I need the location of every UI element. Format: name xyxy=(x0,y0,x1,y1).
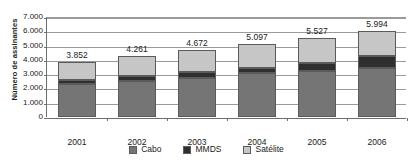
bar-segment-satélite-2001[interactable] xyxy=(58,62,96,80)
bar-total-label-2006: 5.994 xyxy=(349,20,405,29)
legend-item-satélite[interactable]: Satélite xyxy=(243,145,283,154)
legend-swatch-icon-cabo xyxy=(129,146,137,154)
bar-stack xyxy=(178,17,216,117)
y-tick-mark xyxy=(44,61,47,62)
y-tick-label: 5.000 xyxy=(0,42,43,50)
bar-segment-satélite-2002[interactable] xyxy=(118,56,156,76)
gridline xyxy=(47,89,406,90)
legend-item-cabo[interactable]: Cabo xyxy=(129,145,161,154)
y-tick-mark xyxy=(44,104,47,105)
plot-area: 3.8524.2614.6725.0975.5275.994 200120022… xyxy=(46,17,406,117)
bar-group-2006[interactable]: 5.994 xyxy=(358,17,396,117)
gridline xyxy=(47,18,406,19)
bar-stack xyxy=(58,17,96,117)
y-tick-mark xyxy=(44,32,47,33)
y-tick-label: 1.000 xyxy=(0,99,43,107)
legend-swatch-icon-satélite xyxy=(243,146,251,154)
y-tick-mark xyxy=(44,89,47,90)
bar-stack xyxy=(118,17,156,117)
x-tick-mark xyxy=(347,118,348,121)
y-tick-label: 3.000 xyxy=(0,70,43,78)
gridline xyxy=(47,47,406,48)
bar-total-label-2004: 5.097 xyxy=(229,33,285,42)
gridline xyxy=(47,32,406,33)
gridline xyxy=(47,61,406,62)
x-tick-mark xyxy=(407,118,408,121)
y-tick-label: 6.000 xyxy=(0,27,43,35)
legend-swatch-icon-mmds xyxy=(183,146,191,154)
chart-legend: CaboMMDSSatélite xyxy=(0,145,413,154)
bar-segment-satélite-2003[interactable] xyxy=(178,50,216,72)
legend-label: Satélite xyxy=(255,145,283,154)
bar-total-label-2002: 4.261 xyxy=(109,45,165,54)
y-tick-label: 0 xyxy=(0,113,43,121)
bar-segment-satélite-2005[interactable] xyxy=(298,38,336,63)
bar-total-label-2005: 5.527 xyxy=(289,27,345,36)
x-tick-mark xyxy=(287,118,288,121)
y-tick-mark xyxy=(44,47,47,48)
bar-segment-mmds-2004[interactable] xyxy=(238,68,276,73)
bar-total-label-2003: 4.672 xyxy=(169,39,225,48)
x-tick-mark xyxy=(227,118,228,121)
bar-group-2002[interactable]: 4.261 xyxy=(118,17,156,117)
bar-segment-cabo-2002[interactable] xyxy=(118,81,156,117)
bar-segment-cabo-2006[interactable] xyxy=(358,68,396,117)
bar-total-label-2001: 3.852 xyxy=(49,51,105,60)
bar-group-2003[interactable]: 4.672 xyxy=(178,17,216,117)
bar-segment-cabo-2004[interactable] xyxy=(238,73,276,117)
bar-group-2004[interactable]: 5.097 xyxy=(238,17,276,117)
bar-segment-satélite-2004[interactable] xyxy=(238,44,276,68)
bar-segment-satélite-2006[interactable] xyxy=(358,31,396,56)
x-tick-mark xyxy=(107,118,108,121)
bar-segment-cabo-2001[interactable] xyxy=(58,84,96,117)
y-tick-mark xyxy=(44,118,47,119)
bar-segment-mmds-2002[interactable] xyxy=(118,76,156,81)
bar-segment-cabo-2005[interactable] xyxy=(298,71,336,117)
y-tick-mark xyxy=(44,18,47,19)
y-tick-label: 7.000 xyxy=(0,13,43,21)
stacked-bar-chart: Número de assinantes 01.0002.0003.0004.0… xyxy=(0,0,413,163)
legend-label: Cabo xyxy=(141,145,161,154)
y-tick-label: 4.000 xyxy=(0,56,43,64)
bar-segment-mmds-2006[interactable] xyxy=(358,56,396,68)
bar-segment-mmds-2001[interactable] xyxy=(58,80,96,84)
bar-segment-cabo-2003[interactable] xyxy=(178,78,216,117)
bar-group-2005[interactable]: 5.527 xyxy=(298,17,336,117)
bar-group-2001[interactable]: 3.852 xyxy=(58,17,96,117)
bar-segment-mmds-2003[interactable] xyxy=(178,72,216,78)
legend-label: MMDS xyxy=(195,145,221,154)
bar-segment-mmds-2005[interactable] xyxy=(298,63,336,71)
bar-stack xyxy=(358,17,396,117)
y-tick-label: 2.000 xyxy=(0,84,43,92)
gridline xyxy=(47,104,406,105)
gridline xyxy=(47,75,406,76)
y-tick-mark xyxy=(44,75,47,76)
x-tick-mark xyxy=(167,118,168,121)
legend-item-mmds[interactable]: MMDS xyxy=(183,145,221,154)
